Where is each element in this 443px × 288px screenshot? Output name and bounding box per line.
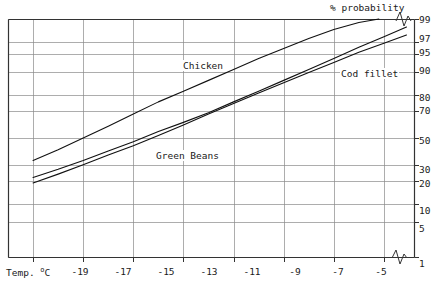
y-tick-1: 1 — [419, 258, 425, 269]
x-axis-title-text: Temp. — [6, 267, 40, 278]
y-tick-99: 99 — [419, 14, 430, 25]
series-label-chicken: Chicken — [182, 60, 224, 71]
x-tick--11: -11 — [240, 266, 264, 277]
x-tick--17: -17 — [111, 266, 135, 277]
x-tick--5: -5 — [369, 266, 393, 277]
y-tick-95: 95 — [419, 47, 430, 58]
y-tick-90: 90 — [419, 65, 430, 76]
y-tick-70: 70 — [419, 105, 430, 116]
x-tick--15: -15 — [154, 266, 178, 277]
x-tick--13: -13 — [197, 266, 221, 277]
y-tick-80: 80 — [419, 92, 430, 103]
probability-chart: % probability 99 97 95 90 80 70 50 30 20… — [0, 0, 443, 288]
series-label-green-beans: Green Beans — [155, 150, 220, 161]
y-tick-97: 97 — [419, 33, 430, 44]
x-axis-unit-c: C — [45, 267, 51, 278]
y-tick-10: 10 — [419, 205, 430, 216]
y-tick-20: 20 — [419, 178, 430, 189]
x-tick--9: -9 — [283, 266, 307, 277]
series-line-chicken — [33, 19, 379, 161]
series-label-cod-fillet: Cod fillet — [340, 68, 399, 79]
plot-canvas — [0, 0, 443, 288]
x-tick--19: -19 — [68, 266, 92, 277]
y-tick-5: 5 — [419, 223, 425, 234]
y-tick-50: 50 — [419, 135, 430, 146]
x-axis-title: Temp. oC — [6, 266, 50, 278]
y-tick-30: 30 — [419, 164, 430, 175]
x-tick--7: -7 — [326, 266, 350, 277]
